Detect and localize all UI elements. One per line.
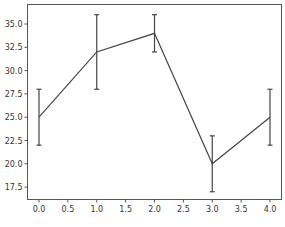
x-tick-label: 2.0 bbox=[148, 205, 161, 214]
y-tick-label: 30.0 bbox=[5, 67, 23, 76]
y-axis: 17.520.022.525.027.530.032.535.0 bbox=[5, 20, 28, 192]
y-tick-label: 17.5 bbox=[5, 183, 23, 192]
y-tick-label: 22.5 bbox=[5, 137, 23, 146]
x-tick-label: 3.0 bbox=[206, 205, 219, 214]
x-tick-label: 2.5 bbox=[177, 205, 190, 214]
x-tick-label: 1.0 bbox=[90, 205, 103, 214]
x-tick-label: 4.0 bbox=[264, 205, 277, 214]
x-axis: 0.00.51.01.52.02.53.03.54.0 bbox=[33, 200, 277, 214]
errorbar-line-chart: 17.520.022.525.027.530.032.535.0 0.00.51… bbox=[0, 0, 285, 227]
y-tick-label: 27.5 bbox=[5, 90, 23, 99]
y-tick-label: 32.5 bbox=[5, 43, 23, 52]
x-tick-label: 0.5 bbox=[62, 205, 75, 214]
x-tick-label: 0.0 bbox=[33, 205, 46, 214]
x-tick-label: 3.5 bbox=[235, 205, 248, 214]
y-tick-label: 35.0 bbox=[5, 20, 23, 29]
y-tick-label: 25.0 bbox=[5, 113, 23, 122]
y-tick-label: 20.0 bbox=[5, 160, 23, 169]
x-tick-label: 1.5 bbox=[119, 205, 132, 214]
